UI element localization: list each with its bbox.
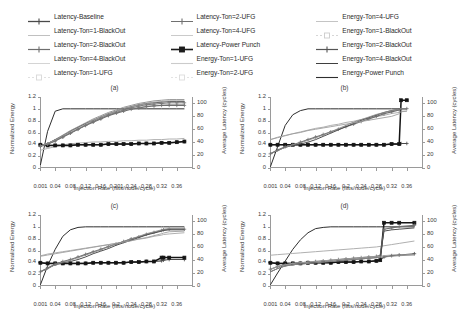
legend-label: Latency-Ton=4-BlackOut [54,54,125,63]
y-axis-label-right: Average Latency (cycles) [221,87,227,154]
series-marker [383,143,386,146]
legend-item[interactable]: Energy-Ton=2-UFG [171,66,305,79]
y-tick-label-right: 80 [427,230,449,236]
legend-label: Energy-Ton=2-BlackOut [342,40,411,49]
x-tick-mark [331,286,332,289]
x-tick-mark [316,286,317,289]
series-marker [99,261,102,264]
legend-item[interactable]: Latency-Power Punch [171,38,305,51]
x-tick-mark [131,286,132,289]
legend-swatch-icon [316,68,338,77]
x-tick-mark [346,168,347,171]
series-marker [137,261,140,264]
y-tick-label-right: 60 [427,125,449,131]
x-tick-mark [285,286,286,289]
series-marker [84,262,87,265]
series-marker [162,256,165,259]
y-tick-label-left: 0.4 [244,258,266,264]
y-tick-label-left: 1 [14,223,36,229]
y-tick-label-right: 40 [197,256,219,262]
x-tick-mark [361,168,362,171]
series-line [270,223,414,264]
series-marker [107,261,110,264]
plot-area: 1.210.80.60.40.201008060402000.0010.040.… [270,215,422,286]
series-marker [322,143,325,146]
legend-item[interactable]: Latency-Ton=1-BlackOut [28,24,155,37]
y-tick-mark-right [422,273,425,274]
y-tick-label-right: 80 [197,112,219,118]
y-tick-mark-right [192,142,195,143]
series-marker [390,254,394,258]
x-tick-mark [86,286,87,289]
figure-root: Latency-BaselineLatency-Ton=1-BlackOutLa… [0,0,459,323]
series-marker [360,260,363,263]
legend-swatch-icon [316,40,338,49]
x-tick-mark [116,286,117,289]
x-tick-mark [376,286,377,289]
legend-item[interactable]: Latency-Ton=2-BlackOut [28,38,155,51]
series-marker [398,143,401,146]
y-tick-mark-right [192,286,195,287]
legend-item[interactable]: Energy-Ton=2-BlackOut [316,38,459,51]
right-axis-line [192,215,193,286]
legend-swatch-icon [28,12,50,21]
series-marker [398,221,401,224]
legend-label: Energy-Ton=4-BlackOut [342,54,411,63]
series-line [270,109,406,154]
series-marker [61,144,64,147]
legend-item[interactable]: Latency-Ton=1-UFG [28,66,155,79]
series-line [270,109,406,154]
y-tick-label-right: 0 [197,164,219,170]
x-tick-mark [346,286,347,289]
y-tick-mark-right [192,116,195,117]
y-axis-label-left: Normalized Energy [239,221,245,272]
y-tick-mark-right [422,129,425,130]
series-layer [270,215,422,286]
y-tick-label-right: 80 [197,230,219,236]
x-tick-mark [116,168,117,171]
legend-swatch-icon [171,54,193,63]
legend-item[interactable]: Energy-Ton=1-BlackOut [316,24,459,37]
subplot-title: (a) [0,84,229,91]
x-tick-mark [392,286,393,289]
series-marker [352,143,355,146]
legend-item[interactable]: Energy-Ton=4-BlackOut [316,52,459,65]
y-tick-mark-right [192,273,195,274]
legend-swatch-icon [28,26,50,35]
legend-item[interactable]: Latency-Baseline [28,10,155,23]
y-tick-label-left: 0.4 [14,258,36,264]
series-line [40,229,184,272]
series-line [270,109,406,154]
x-tick-mark [146,168,147,171]
legend-item[interactable]: Latency-Ton=4-UFG [171,24,305,37]
series-marker [276,262,279,265]
series-marker [175,141,178,144]
legend-item[interactable]: Energy-Ton=1-UFG [171,52,305,65]
legend-column-3: Energy-Ton=4-UFGEnergy-Ton=1-BlackOutEne… [304,2,459,82]
y-tick-label-right: 20 [427,151,449,157]
y-tick-label-left: 0.8 [244,235,266,241]
y-tick-label-right: 100 [427,217,449,223]
legend-label: Energy-Ton=4-UFG [342,12,399,21]
y-tick-label-right: 40 [427,256,449,262]
y-tick-label-right: 80 [427,112,449,118]
legend-swatch-icon [171,12,193,21]
y-tick-label-left: 0.8 [244,117,266,123]
legend-item[interactable]: Latency-Ton=2-UFG [171,10,305,23]
x-tick-mark [300,168,301,171]
x-tick-mark [101,286,102,289]
series-marker [375,143,378,146]
legend-item[interactable]: Latency-Ton=4-BlackOut [28,52,155,65]
series-marker [367,143,370,146]
series-marker [153,142,156,145]
x-tick-mark [392,168,393,171]
x-tick-mark [70,168,71,171]
legend-label: Latency-Ton=1-UFG [54,68,113,77]
legend-item[interactable]: Energy-Ton=4-UFG [316,10,459,23]
series-line [40,230,184,272]
legend-swatch-icon [171,68,193,77]
series-marker [145,260,148,263]
y-tick-label-left: 1.2 [14,93,36,99]
subplot-d: (d)1.210.80.60.40.201008060402000.0010.0… [230,202,459,322]
legend-item[interactable]: Energy-Power Punch [316,66,459,79]
